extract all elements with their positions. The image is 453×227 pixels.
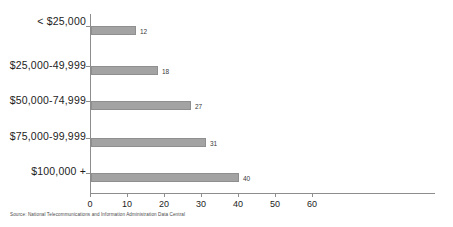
y-axis-label-2: $50,000-74,999: [0, 94, 86, 106]
bar-4: [91, 173, 239, 182]
y-axis-label-1: $25,000-49,999: [0, 59, 86, 71]
x-axis-label-6: 60: [297, 199, 327, 209]
chart-title: [150, 0, 410, 1]
x-axis-label-3: 30: [186, 199, 216, 209]
x-axis-label-4: 40: [223, 199, 253, 209]
y-tick-0: [86, 26, 90, 27]
y-tick-4: [86, 173, 90, 174]
y-tick-3: [86, 138, 90, 139]
bar-value-1: 18: [162, 68, 169, 75]
x-tick-50: [275, 193, 276, 197]
bar-value-2: 27: [195, 103, 202, 110]
x-tick-40: [238, 193, 239, 197]
bar-chart: < $25,000 $25,000-49,999 $50,000-74,999 …: [0, 0, 453, 227]
bar-value-4: 40: [243, 175, 250, 182]
bar-value-3: 31: [210, 140, 217, 147]
y-axis-label-0: < $25,000: [0, 15, 86, 27]
bar-2: [91, 101, 191, 110]
bar-value-0: 12: [140, 28, 147, 35]
x-tick-20: [164, 193, 165, 197]
source-note: Source: National Telecommunications and …: [10, 212, 185, 217]
x-axis-label-2: 20: [149, 199, 179, 209]
x-axis-label-5: 50: [260, 199, 290, 209]
y-axis-label-4: $100,000 +: [0, 165, 86, 177]
x-tick-30: [201, 193, 202, 197]
x-tick-60: [312, 193, 313, 197]
y-axis-label-3: $75,000-99,999: [0, 130, 86, 142]
bar-0: [91, 26, 136, 35]
x-tick-10: [127, 193, 128, 197]
y-tick-2: [86, 101, 90, 102]
x-tick-0: [90, 193, 91, 197]
bar-1: [91, 66, 158, 75]
x-axis-line: [90, 193, 435, 194]
bar-3: [91, 138, 206, 147]
x-axis-label-1: 10: [112, 199, 142, 209]
y-tick-1: [86, 66, 90, 67]
x-axis-label-0: 0: [75, 199, 105, 209]
